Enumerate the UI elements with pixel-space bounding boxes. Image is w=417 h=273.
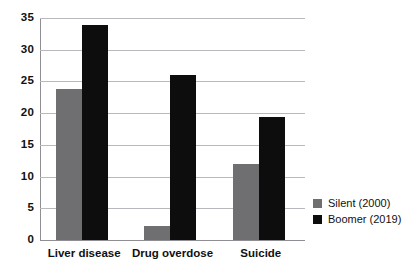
bar[interactable] (170, 75, 196, 240)
y-tick-label-15: 15 (4, 139, 34, 151)
plot-area (40, 18, 305, 240)
bar[interactable] (56, 89, 82, 240)
y-tick-label-5: 5 (4, 202, 34, 214)
legend-swatch-boomer-icon (313, 215, 322, 224)
y-tick-label-35: 35 (4, 12, 34, 24)
bar[interactable] (233, 164, 259, 240)
legend-swatch-silent-icon (313, 199, 322, 208)
bar[interactable] (259, 117, 285, 240)
x-label-suicide: Suicide (217, 248, 305, 260)
legend-item-silent[interactable]: Silent (2000) (313, 196, 401, 210)
bar[interactable] (82, 25, 108, 240)
x-label-drug-overdose: Drug overdose (128, 248, 216, 260)
x-label-liver-disease: Liver disease (40, 248, 128, 260)
bar-group (128, 18, 216, 240)
bar[interactable] (144, 226, 170, 240)
bar-chart: 05101520253035 Liver diseaseDrug overdos… (0, 0, 417, 273)
bar-group (217, 18, 305, 240)
bar-group (40, 18, 128, 240)
legend-label-boomer: Boomer (2019) (328, 214, 401, 225)
y-tick-label-0: 0 (4, 234, 34, 246)
legend-item-boomer[interactable]: Boomer (2019) (313, 212, 401, 226)
gridline-0 (40, 240, 305, 241)
y-tick-label-25: 25 (4, 75, 34, 87)
legend-label-silent: Silent (2000) (328, 198, 390, 209)
y-tick-label-10: 10 (4, 171, 34, 183)
chart-legend: Silent (2000) Boomer (2019) (313, 196, 401, 228)
y-tick-label-30: 30 (4, 44, 34, 56)
y-tick-label-20: 20 (4, 107, 34, 119)
